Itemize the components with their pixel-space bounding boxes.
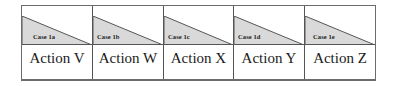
- column-case-1e: Case 1e Action Z: [305, 6, 375, 79]
- triangle-header-icon: [93, 16, 163, 45]
- action-label: Action X: [164, 50, 233, 67]
- row-divider: [22, 44, 92, 45]
- column-case-1d: Case 1d Action Y: [234, 6, 305, 79]
- action-label: Action V: [22, 50, 92, 67]
- case-label: Case 1a: [33, 33, 55, 40]
- column-case-1b: Case 1b Action W: [93, 6, 164, 79]
- action-label: Action Y: [234, 50, 304, 67]
- case-label: Case 1b: [97, 33, 120, 40]
- case-label: Case 1c: [168, 33, 190, 40]
- row-divider: [93, 44, 163, 45]
- triangle-header-icon: [234, 16, 304, 45]
- action-label: Action W: [93, 50, 163, 67]
- row-divider: [164, 44, 233, 45]
- column-case-1a: Case 1a Action V: [22, 6, 93, 79]
- columns-row: Case 1a Action V Case 1b Action W Case 1…: [22, 6, 375, 79]
- triangle-header-icon: [164, 16, 233, 45]
- case-action-table: Case 1a Action V Case 1b Action W Case 1…: [21, 5, 376, 81]
- action-label: Action Z: [305, 50, 375, 67]
- row-divider: [234, 44, 304, 45]
- column-case-1c: Case 1c Action X: [164, 6, 234, 79]
- case-label: Case 1e: [313, 33, 335, 40]
- triangle-header-icon: [22, 16, 92, 45]
- row-divider: [305, 44, 375, 45]
- triangle-header-icon: [305, 16, 375, 45]
- case-label: Case 1d: [238, 33, 261, 40]
